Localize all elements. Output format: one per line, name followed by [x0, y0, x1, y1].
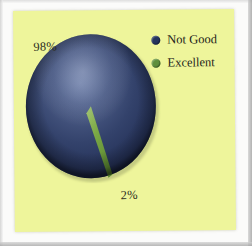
chart-legend: Not Good Excellent — [151, 29, 236, 76]
legend-item-not-good[interactable]: Not Good — [151, 29, 236, 50]
pie-label-not-good: 98% — [33, 39, 57, 55]
chart-card: 98% 2% Not Good Excellent — [13, 9, 236, 232]
frame-edge-right — [248, 0, 252, 246]
pie-highlight — [25, 34, 156, 179]
pie-label-excellent: 2% — [120, 188, 137, 203]
frame-edge-top — [0, 0, 252, 3]
legend-item-label: Excellent — [167, 56, 214, 69]
legend-item-label: Not Good — [167, 33, 217, 46]
legend-item-excellent[interactable]: Excellent — [151, 52, 236, 73]
screenshot-root: 98% 2% Not Good Excellent — [0, 0, 252, 246]
frame-edge-bottom — [0, 242, 252, 246]
pie-chart: 98% 2% Not Good Excellent — [13, 9, 236, 232]
frame-edge-left — [0, 0, 3, 246]
circle-swatch-icon — [151, 58, 160, 67]
chart-card-inner: 98% 2% Not Good Excellent — [13, 9, 236, 232]
circle-swatch-icon — [151, 35, 160, 44]
